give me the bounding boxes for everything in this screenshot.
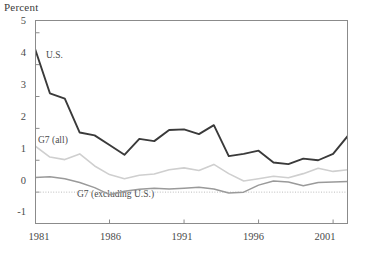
y-tick-label-4: 4 — [4, 46, 26, 57]
y-tick-label-5: 5 — [4, 15, 26, 26]
x-tick-label-1981: 1981 — [29, 231, 50, 242]
chart-figure: Percent 5 4 3 2 1 0 -1 1981 1986 1991 19… — [0, 0, 367, 258]
y-tick-label-2: 2 — [4, 110, 26, 121]
x-tick-label-1996: 1996 — [243, 231, 264, 242]
x-tick-label-1991: 1991 — [172, 231, 193, 242]
y-tick-label-3: 3 — [4, 78, 26, 89]
x-tick-label-2001: 2001 — [315, 231, 336, 242]
plot-frame — [35, 20, 348, 224]
x-tick-label-1986: 1986 — [100, 231, 121, 242]
y-tick-label-minus-1: -1 — [4, 206, 26, 217]
plot-area — [35, 20, 348, 224]
y-axis-title: Percent — [4, 1, 38, 13]
y-tick-label-0: 0 — [4, 174, 26, 185]
y-tick-label-1: 1 — [4, 142, 26, 153]
